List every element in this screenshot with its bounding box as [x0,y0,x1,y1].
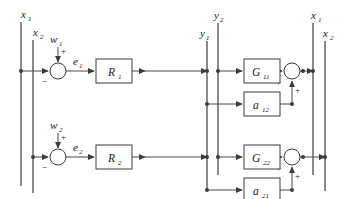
label-x2-left-sub: 2 [40,33,44,41]
label-e1: e 1 [73,55,83,70]
label-x1-left: x 1 [20,8,32,23]
block-a12-subscript: 12 [262,106,270,114]
block-G22[interactable]: G 22 [244,145,280,169]
label-w2-sub: 2 [59,126,63,134]
node-sum-y1-out [301,69,305,73]
label-x1-right: x 1 [310,9,322,24]
node-sum-y2-out [301,155,305,159]
wire-a21-to-sum-y2 [280,167,292,190]
sign-minus-x2: − [42,162,47,172]
node-x1-left-top [19,69,23,73]
wire-a12-to-sum-y1 [280,81,292,104]
node-x1-right-top [311,69,315,73]
sign-plus-a21: + [295,171,300,181]
label-y2: y 2 [213,9,224,24]
label-x2-right-sub: 2 [330,34,334,42]
sum-junction-y1 [284,63,300,79]
label-e2: e 2 [73,141,83,156]
label-x2-right-base: x [322,27,328,39]
label-x1-right-sub: 1 [318,16,322,24]
label-x1-left-sub: 1 [28,15,32,23]
sum-junction-y2 [284,149,300,165]
node-x2-right-bottom [323,155,327,159]
node-y1-feedback-bottom [205,188,209,192]
label-e1-base: e [73,55,78,67]
block-G22-box[interactable] [244,145,280,169]
node-y1-bottom [205,155,209,159]
signal-labels: x 1 x 2 w 1 e 1 w 2 e 2 [20,8,334,156]
label-x1-right-base: x [310,9,316,21]
node-a21-riser [290,188,294,192]
node-a12-riser [290,102,294,106]
label-y2-base: y [213,9,219,21]
label-e2-base: e [73,141,78,153]
block-G11[interactable]: G 11 [244,59,280,83]
label-e2-sub: 2 [79,148,83,156]
block-R2-subscript: 2 [118,159,122,167]
label-y1-sub: 1 [206,34,210,42]
block-diagram-canvas: + − + − + + + + R 1 R 2 G 11 [0,0,349,199]
block-G11-subscript: 11 [263,73,269,81]
block-a12[interactable]: a 12 [244,92,280,116]
node-y1-feedback-top [205,102,209,106]
block-R1[interactable]: R 1 [96,59,132,83]
junction-nodes [19,69,327,192]
block-a12-label: a [253,99,259,111]
block-a21-label: a [253,185,259,197]
block-a21[interactable]: a 21 [244,178,280,199]
label-y2-sub: 2 [220,16,224,24]
label-y1: y 1 [199,27,210,42]
block-diagram-svg: + − + − + + + + R 1 R 2 G 11 [0,0,349,199]
label-e1-sub: 1 [79,62,83,70]
label-x1-left-base: x [20,8,26,20]
label-y1-base: y [199,27,205,39]
label-x2-left-base: x [32,26,38,38]
sign-minus-x1: − [42,76,47,86]
block-a21-subscript: 21 [262,192,269,199]
sum-junction-e1 [50,63,66,79]
block-G22-label: G [252,152,261,164]
label-w2-base: w [50,119,58,131]
block-R1-label: R [107,66,115,78]
label-w1-sub: 1 [59,40,63,48]
label-x2-right: x 2 [322,27,334,42]
node-y1-top [205,69,209,73]
sum-junction-e2 [50,149,66,165]
transfer-function-blocks: R 1 R 2 G 11 a 12 G 22 [96,59,280,199]
block-R2-label: R [107,152,115,164]
label-w2: w 2 [50,119,63,134]
sign-plus-a12: + [295,85,300,95]
label-w1-base: w [50,33,58,45]
label-w1: w 1 [50,33,63,48]
block-G11-label: G [252,66,261,78]
block-G22-subscript: 22 [263,159,271,167]
block-G11-box[interactable] [244,59,280,83]
block-R2[interactable]: R 2 [96,145,132,169]
node-y2-top [216,69,220,73]
label-x2-left: x 2 [32,26,44,41]
block-R1-subscript: 1 [118,73,122,81]
node-y2-bottom [216,155,220,159]
node-x2-left-bottom [31,155,35,159]
